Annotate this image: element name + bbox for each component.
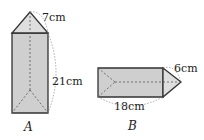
prism-a-height-label: 21cm bbox=[52, 76, 83, 87]
prism-a-label: A bbox=[24, 121, 33, 133]
prism-b-edge-label: 6cm bbox=[174, 63, 198, 74]
prism-b-length-label: 18cm bbox=[114, 101, 145, 112]
prism-b-label: B bbox=[128, 120, 137, 132]
prism-a bbox=[12, 12, 56, 113]
prism-a-edge-label: 7cm bbox=[42, 12, 66, 23]
